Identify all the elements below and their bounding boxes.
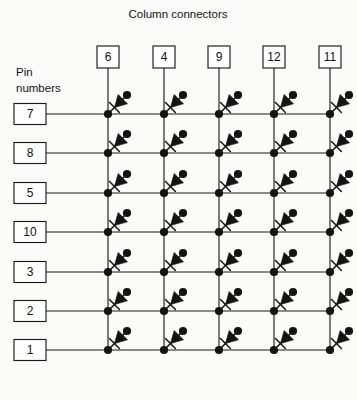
pin-number-2[interactable]: 2 <box>14 301 46 322</box>
junction-dot-r10-c11 <box>326 228 334 236</box>
column-label-text: 6 <box>105 50 112 64</box>
junction-dot-upper <box>123 288 131 296</box>
junction-dot-upper <box>289 91 297 99</box>
junction-dot-upper <box>345 91 353 99</box>
pin-numbers-label-line2: numbers <box>16 82 61 94</box>
junction-dot-r1-c11 <box>326 346 334 354</box>
pin-numbers-annotation: Pinnumbers <box>16 66 61 94</box>
pin-number-labels: 78510321 <box>14 104 46 361</box>
junction-dot-r5-c11 <box>326 189 334 197</box>
junction-dot-upper <box>179 327 187 335</box>
junction-dot-r2-c6 <box>104 307 112 315</box>
junction-dot-upper <box>123 209 131 217</box>
junction-dot-upper <box>289 170 297 178</box>
column-connector-labels: 6491211 <box>97 46 341 68</box>
junction-dot-upper <box>345 130 353 138</box>
pin-label-text: 7 <box>27 107 34 121</box>
schematic-canvas: Column connectors Pinnumbers 6491211 785… <box>0 0 357 400</box>
junction-dot-upper <box>289 249 297 257</box>
wire-layer <box>46 68 330 350</box>
junction-dot-r7-c9 <box>215 110 223 118</box>
junction-dot-upper <box>123 91 131 99</box>
junction-dot-upper <box>179 249 187 257</box>
junction-dot-upper <box>289 209 297 217</box>
junction-dot-r8-c11 <box>326 149 334 157</box>
pin-label-text: 3 <box>27 265 34 279</box>
junction-dot-r7-c4 <box>160 110 168 118</box>
column-label-text: 12 <box>267 50 281 64</box>
column-label-text: 4 <box>161 50 168 64</box>
junction-dot-r3-c11 <box>326 268 334 276</box>
pin-label-text: 1 <box>27 343 34 357</box>
column-connector-6[interactable]: 6 <box>97 46 119 68</box>
title-layer: Column connectors <box>128 8 227 20</box>
column-connector-11[interactable]: 11 <box>319 46 341 68</box>
diode-layer <box>108 95 349 350</box>
pin-number-8[interactable]: 8 <box>14 143 46 164</box>
junction-dot-r5-c6 <box>104 189 112 197</box>
junction-dot-upper <box>345 288 353 296</box>
junction-dot-r5-c12 <box>270 189 278 197</box>
junction-dot-r5-c4 <box>160 189 168 197</box>
pin-label-text: 10 <box>23 225 37 239</box>
junction-dot-r8-c6 <box>104 149 112 157</box>
junction-dot-upper <box>123 249 131 257</box>
junction-dot-upper <box>234 91 242 99</box>
junction-dot-r8-c9 <box>215 149 223 157</box>
junction-dot-upper <box>289 327 297 335</box>
pin-label-text: 5 <box>27 186 34 200</box>
junction-dot-r5-c9 <box>215 189 223 197</box>
pin-label-text: 8 <box>27 146 34 160</box>
junction-dot-upper <box>289 288 297 296</box>
junction-dot-r10-c12 <box>270 228 278 236</box>
junction-dot-upper <box>123 130 131 138</box>
junction-dot-r2-c11 <box>326 307 334 315</box>
pin-number-10[interactable]: 10 <box>14 222 46 243</box>
junction-dot-r10-c4 <box>160 228 168 236</box>
junction-dot-r7-c12 <box>270 110 278 118</box>
diode-matrix-diagram: Column connectors Pinnumbers 6491211 785… <box>0 0 357 400</box>
junction-dot-r3-c4 <box>160 268 168 276</box>
junction-dot-upper <box>179 91 187 99</box>
junction-dot-upper <box>345 209 353 217</box>
junction-dot-r1-c12 <box>270 346 278 354</box>
junction-dot-upper <box>123 327 131 335</box>
junction-dot-upper <box>234 209 242 217</box>
junction-dot-r1-c9 <box>215 346 223 354</box>
junction-dot-r7-c11 <box>326 110 334 118</box>
junction-dot-upper <box>345 249 353 257</box>
junction-dot-r8-c4 <box>160 149 168 157</box>
column-connector-4[interactable]: 4 <box>153 46 175 68</box>
column-label-text: 9 <box>216 50 223 64</box>
pin-number-3[interactable]: 3 <box>14 262 46 283</box>
junction-dot-r1-c6 <box>104 346 112 354</box>
junction-dot-r10-c9 <box>215 228 223 236</box>
junction-dot-r1-c4 <box>160 346 168 354</box>
junction-dot-r10-c6 <box>104 228 112 236</box>
junction-dot-r2-c4 <box>160 307 168 315</box>
junction-dot-upper <box>179 130 187 138</box>
junction-dot-upper <box>234 327 242 335</box>
junction-dot-upper <box>234 288 242 296</box>
junction-dot-upper <box>123 170 131 178</box>
junction-dot-upper <box>234 130 242 138</box>
junction-dot-r3-c9 <box>215 268 223 276</box>
junction-dot-upper <box>345 170 353 178</box>
column-connector-12[interactable]: 12 <box>263 46 285 68</box>
junction-dot-upper <box>179 288 187 296</box>
junction-dot-upper <box>345 327 353 335</box>
junction-dot-r2-c12 <box>270 307 278 315</box>
diagram-title: Column connectors <box>128 8 227 20</box>
junction-dot-upper <box>234 249 242 257</box>
pin-number-5[interactable]: 5 <box>14 183 46 204</box>
pin-numbers-label-line1: Pin <box>16 66 33 78</box>
junction-dot-upper <box>289 130 297 138</box>
column-label-text: 11 <box>324 50 337 64</box>
junction-dot-r3-c12 <box>270 268 278 276</box>
pin-number-1[interactable]: 1 <box>14 340 46 361</box>
column-connector-9[interactable]: 9 <box>208 46 230 68</box>
junction-dot-r2-c9 <box>215 307 223 315</box>
junction-dot-upper <box>179 170 187 178</box>
junction-dot-r8-c12 <box>270 149 278 157</box>
pin-number-7[interactable]: 7 <box>14 104 46 125</box>
